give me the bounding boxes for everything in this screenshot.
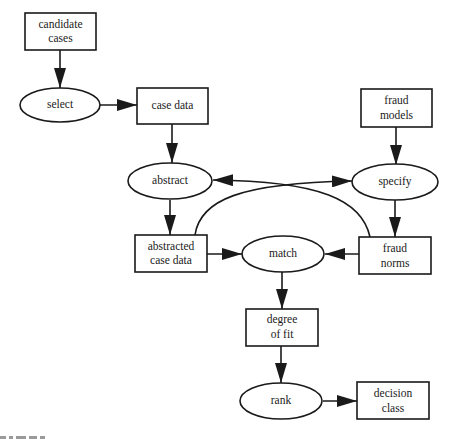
node-match: match [242,236,324,272]
node-case-data: case data [137,88,208,124]
node-abstracted-case-data: abstracted case data [135,235,207,272]
edge-fraud-norms-to-abstract [213,180,370,237]
node-label: match [269,247,297,259]
node-label-line2: class [382,402,405,414]
node-label: case data [152,99,194,111]
node-select: select [20,88,100,122]
node-label-line1: fraud [384,94,409,106]
clipped-caption-fragment [0,432,160,439]
node-label-line2: models [380,109,414,121]
node-label-line1: decision [374,387,413,399]
node-label-line2: of fit [271,328,294,340]
node-decision-class: decision class [357,382,429,419]
node-fraud-norms: fraud norms [359,237,431,274]
node-label-line2: case data [150,254,192,266]
node-rank: rank [240,383,322,419]
fraud-detection-flowchart: candidate cases select case data fraud m… [0,0,451,439]
node-abstract: abstract [128,163,212,199]
node-label-line1: candidate [38,18,82,30]
node-label: select [47,98,74,110]
edge-abstracted-case-data-to-specify [195,181,352,235]
node-degree-of-fit: degree of fit [246,309,318,346]
node-label: specify [378,175,411,188]
node-specify: specify [352,164,438,200]
node-fraud-models: fraud models [361,89,432,127]
node-label-line1: fraud [383,242,408,254]
node-label-line2: cases [48,32,73,44]
node-candidate-cases: candidate cases [25,13,96,50]
node-label: abstract [152,174,189,186]
node-label-line1: abstracted [148,240,195,252]
node-label-line2: norms [381,257,410,269]
node-label: rank [271,394,292,406]
node-label-line1: degree [267,313,298,326]
edges [60,50,396,401]
